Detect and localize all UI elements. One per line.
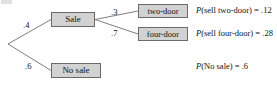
- node-no-sale-label: No sale: [62, 66, 89, 75]
- probability-argument: (sell two-door): [201, 5, 252, 15]
- edge-label-root-no-sale: .6: [25, 62, 31, 71]
- probability-argument: (No sale): [201, 61, 232, 71]
- node-sale: Sale: [51, 12, 95, 27]
- node-four-door-label: four-door: [147, 30, 179, 39]
- probability-statement-two-door: P(sell two-door) = .12: [196, 6, 272, 15]
- equals-sign: =: [235, 61, 240, 71]
- probability-argument: (sell four-door): [201, 28, 253, 38]
- probability-value: .28: [262, 28, 273, 38]
- probability-tree-diagram: Sale No sale two-door four-door .4 .6 .3…: [0, 0, 277, 86]
- edge-label-sale-four-door: .7: [111, 29, 117, 38]
- node-two-door-label: two-door: [147, 7, 178, 16]
- equals-sign: =: [255, 28, 260, 38]
- edge-label-root-sale: .4: [23, 21, 29, 30]
- edge-label-sale-two-door: .3: [111, 8, 117, 17]
- node-no-sale: No sale: [51, 63, 101, 78]
- node-two-door: two-door: [138, 4, 188, 18]
- probability-statement-four-door: P(sell four-door) = .28: [196, 29, 273, 38]
- equals-sign: =: [254, 5, 259, 15]
- probability-value: .12: [261, 5, 272, 15]
- edge-root-to-sale: [8, 20, 51, 45]
- probability-statement-no-sale: P(No sale) = .6: [196, 62, 248, 71]
- node-sale-label: Sale: [65, 15, 81, 24]
- probability-value: .6: [242, 61, 248, 71]
- node-four-door: four-door: [138, 27, 188, 41]
